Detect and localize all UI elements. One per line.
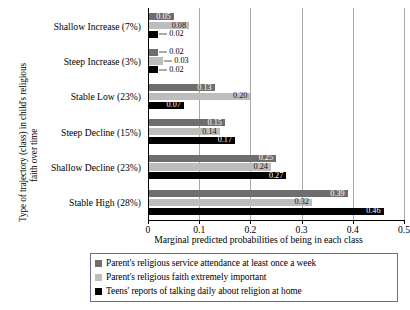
y-axis-tick-label: Steep Decline (15%) <box>61 126 141 137</box>
plot-area: 0.050.080.020.020.030.020.130.200.070.15… <box>148 8 404 220</box>
bar-group: 0.130.200.07 <box>148 79 404 114</box>
legend: Parent's religious service attendance at… <box>90 253 398 302</box>
label-leader-line <box>164 60 172 61</box>
bar-value-label: 0.39 <box>330 189 344 197</box>
bar[interactable] <box>148 172 286 179</box>
bar[interactable] <box>148 208 384 215</box>
y-axis-tick-label: Stable High (28%) <box>69 197 141 208</box>
legend-swatch-icon <box>95 274 102 281</box>
bar-row: 0.13 <box>148 84 404 91</box>
y-axis-title-line-1: Type of trajectory (class) in child's re… <box>18 63 28 222</box>
bar-row: 0.39 <box>148 190 404 197</box>
bar[interactable] <box>148 66 158 73</box>
y-axis-tick-label: Stable Low (23%) <box>71 91 141 102</box>
bar-group: 0.250.240.27 <box>148 149 404 184</box>
bar-row: 0.25 <box>148 155 404 162</box>
bar-value-label: 0.02 <box>169 66 183 74</box>
legend-item-label: Teens' reports of talking daily about re… <box>106 286 302 296</box>
y-axis-tick-label: Shallow Decline (23%) <box>51 162 141 173</box>
bar-row: 0.17 <box>148 137 404 144</box>
label-leader-line <box>159 52 167 53</box>
x-axis-ticks: 00.10.20.30.40.5 <box>148 221 405 235</box>
bar[interactable] <box>148 155 276 162</box>
bar-value-label: 0.02 <box>169 30 183 38</box>
bar-value-label: 0.07 <box>167 101 181 109</box>
bar-value-label: 0.32 <box>295 198 309 206</box>
bar-row: 0.46 <box>148 208 404 215</box>
bar-group: 0.050.080.02 <box>148 8 404 43</box>
bar-value-label: 0.13 <box>197 83 211 91</box>
bar-row: 0.15 <box>148 119 404 126</box>
bar-row: 0.32 <box>148 199 404 206</box>
bar-row: 0.02 <box>148 49 404 56</box>
bar[interactable] <box>148 31 158 38</box>
bar-row: 0.27 <box>148 172 404 179</box>
legend-swatch-icon <box>95 288 102 295</box>
label-leader-line <box>159 34 167 35</box>
bar[interactable] <box>148 57 163 64</box>
legend-item-label: Parent's religious faith extremely impor… <box>106 272 266 282</box>
bar-row: 0.03 <box>148 57 404 64</box>
bar-value-label: 0.20 <box>233 92 247 100</box>
bar-row: 0.14 <box>148 128 404 135</box>
bar-value-label: 0.14 <box>202 128 216 136</box>
y-axis-line <box>148 8 149 220</box>
bar-group: 0.150.140.17 <box>148 114 404 149</box>
legend-item[interactable]: Parent's religious service attendance at… <box>95 256 393 270</box>
y-axis-tick-labels: Shallow Increase (7%)Steep Increase (3%)… <box>34 8 144 220</box>
bar[interactable] <box>148 199 312 206</box>
legend-item-label: Parent's religious service attendance at… <box>106 258 316 268</box>
y-axis-tick-label: Shallow Increase (7%) <box>54 20 141 31</box>
bar-value-label: 0.27 <box>269 172 283 180</box>
legend-item[interactable]: Teens' reports of talking daily about re… <box>95 284 393 298</box>
bar-row: 0.20 <box>148 93 404 100</box>
legend-swatch-icon <box>95 260 102 267</box>
label-leader-line <box>159 69 167 70</box>
legend-item[interactable]: Parent's religious faith extremely impor… <box>95 270 393 284</box>
bar-row: 0.02 <box>148 66 404 73</box>
bar-value-label: 0.24 <box>254 163 268 171</box>
bar-row: 0.07 <box>148 102 404 109</box>
y-axis-tick-label: Steep Increase (3%) <box>64 56 141 67</box>
bar[interactable] <box>148 163 271 170</box>
bar-row: 0.24 <box>148 163 404 170</box>
bar-row: 0.08 <box>148 22 404 29</box>
bar-value-label: 0.05 <box>156 13 170 21</box>
bar-row: 0.05 <box>148 13 404 20</box>
bar-row: 0.02 <box>148 31 404 38</box>
bar-value-label: 0.46 <box>366 207 380 215</box>
x-axis-title: Marginal predicted probabilities of bein… <box>110 234 407 245</box>
bar[interactable] <box>148 190 348 197</box>
gridline <box>404 8 405 220</box>
bar-group: 0.390.320.46 <box>148 185 404 220</box>
bar[interactable] <box>148 49 158 56</box>
bar-group: 0.020.030.02 <box>148 43 404 78</box>
bar-value-label: 0.17 <box>218 136 232 144</box>
